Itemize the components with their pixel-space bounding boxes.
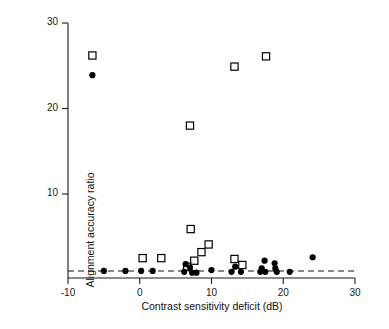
y-tick-label: 30 (34, 16, 58, 27)
data-point-open-square (239, 261, 246, 268)
data-point-filled-circle (208, 267, 214, 273)
y-axis-label: Alignment accuracy ratio (84, 150, 96, 310)
data-point-open-square (198, 249, 205, 256)
data-point-filled-circle (287, 269, 293, 275)
data-point-open-square (139, 255, 146, 262)
data-point-filled-circle (228, 269, 234, 275)
data-point-filled-circle (238, 269, 244, 275)
y-tick-label: 20 (34, 102, 58, 113)
plot-canvas (0, 0, 389, 329)
data-point-open-square (186, 122, 193, 129)
data-point-open-square (205, 241, 212, 248)
data-point-filled-circle (150, 268, 156, 274)
data-point-filled-circle (274, 269, 280, 275)
data-point-filled-circle (101, 268, 107, 274)
data-point-open-square (231, 255, 238, 262)
x-tick-label: -10 (56, 287, 80, 298)
data-point-filled-circle (122, 268, 128, 274)
data-point-filled-circle (193, 270, 199, 276)
data-point-open-square (158, 255, 165, 262)
y-tick-label: 10 (34, 187, 58, 198)
scatter-plot-figure: -100102030102030 Alignment accuracy rati… (0, 0, 389, 329)
data-point-filled-circle (89, 72, 95, 78)
x-tick-label: 0 (128, 287, 152, 298)
data-point-open-square (187, 225, 194, 232)
data-point-filled-circle (262, 269, 268, 275)
data-markers (89, 52, 316, 276)
x-tick-label: 30 (343, 287, 367, 298)
x-axis-label: Contrast sensitivity deficit (dB) (68, 300, 356, 312)
data-point-filled-circle (232, 264, 238, 270)
data-point-filled-circle (138, 268, 144, 274)
data-point-open-square (231, 63, 238, 70)
data-point-open-square (89, 52, 96, 59)
x-tick-label: 20 (271, 287, 295, 298)
data-point-filled-circle (261, 258, 267, 264)
axes (68, 23, 355, 278)
data-point-open-square (262, 53, 269, 60)
axis-ticks (62, 23, 355, 284)
data-point-filled-circle (181, 269, 187, 275)
data-point-filled-circle (310, 254, 316, 260)
data-point-open-square (191, 257, 198, 264)
x-tick-label: 10 (200, 287, 224, 298)
y-axis-label-wrap: Alignment accuracy ratio (62, 72, 78, 232)
